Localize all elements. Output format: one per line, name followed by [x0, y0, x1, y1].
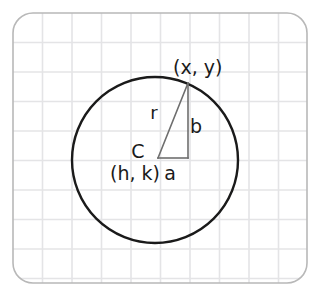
label-center-c: C	[131, 140, 144, 162]
label-radius-r: r	[150, 102, 158, 123]
label-point-on-circle: (x, y)	[173, 56, 222, 78]
label-leg-a: a	[164, 162, 176, 184]
circle-geometry-diagram: (x, y) r b a C (h, k)	[0, 0, 319, 295]
diagram-canvas: (x, y) r b a C (h, k)	[0, 0, 319, 295]
label-center-coordinates: (h, k)	[110, 162, 160, 184]
label-leg-b: b	[190, 115, 202, 137]
